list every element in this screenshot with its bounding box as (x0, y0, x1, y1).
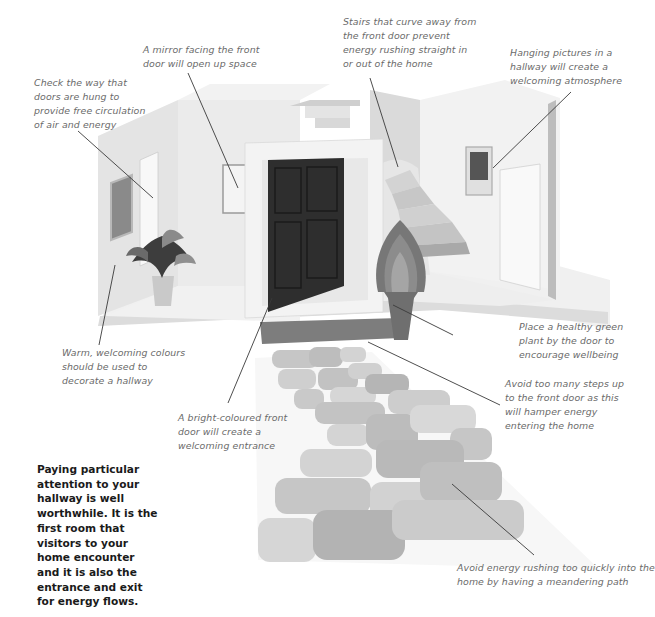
annotation-line: Stairs that curve away from (343, 15, 476, 29)
annotation-colours: Warm, welcoming colours should be used t… (62, 346, 185, 388)
annotation-line: will hamper energy (505, 405, 624, 419)
annotation-line: Check the way that (34, 76, 145, 90)
intro-paragraph: Paying particular attention to your hall… (37, 462, 197, 609)
annotation-steps: Avoid too many steps up to the front doo… (505, 377, 624, 433)
annotation-plant: Place a healthy green plant by the door … (519, 320, 623, 362)
annotation-line: Place a healthy green (519, 320, 623, 334)
annotation-line: A bright-coloured front (178, 411, 287, 425)
annotation-line: welcoming atmosphere (510, 74, 622, 88)
annotation-line: Warm, welcoming colours (62, 346, 185, 360)
annotation-line: door will open up space (143, 57, 259, 71)
annotation-line: decorate a hallway (62, 374, 185, 388)
annotation-line: provide free circulation (34, 104, 145, 118)
annotation-line: should be used to (62, 360, 185, 374)
upper-stairs (290, 100, 360, 128)
left-wall-picture (111, 175, 132, 240)
intro-line: home encounter (37, 550, 197, 565)
intro-line: Paying particular (37, 462, 197, 477)
annotation-line: doors are hung to (34, 90, 145, 104)
annotation-doors-hung: Check the way that doors are hung to pro… (34, 76, 145, 132)
intro-line: entrance and exit (37, 580, 197, 595)
annotation-mirror: A mirror facing the front door will open… (143, 43, 259, 71)
annotation-line: hallway will create a (510, 60, 622, 74)
intro-line: visitors to your (37, 536, 197, 551)
annotation-line: Avoid too many steps up (505, 377, 624, 391)
annotation-front-door: A bright-coloured front door will create… (178, 411, 287, 453)
annotation-line: Hanging pictures in a (510, 46, 622, 60)
intro-line: hallway is well (37, 491, 197, 506)
front-door[interactable] (268, 158, 344, 312)
intro-line: first room that (37, 521, 197, 536)
annotation-line: the front door prevent (343, 29, 476, 43)
annotation-line: or out of the home (343, 57, 476, 71)
intro-line: worthwhile. It is the (37, 506, 197, 521)
annotation-line: door will create a (178, 425, 287, 439)
annotation-line: energy rushing straight in (343, 43, 476, 57)
annotation-line: Avoid energy rushing too quickly into th… (457, 561, 655, 575)
annotation-line: of air and energy (34, 118, 145, 132)
intro-line: attention to your (37, 477, 197, 492)
annotation-line: A mirror facing the front (143, 43, 259, 57)
room-model (98, 80, 610, 344)
annotation-pictures: Hanging pictures in a hallway will creat… (510, 46, 622, 88)
mirror (223, 165, 248, 213)
front-step (260, 318, 400, 344)
annotation-line: entering the home (505, 419, 624, 433)
annotation-path: Avoid energy rushing too quickly into th… (457, 561, 655, 589)
right-door (500, 164, 540, 290)
annotation-line: welcoming entrance (178, 439, 287, 453)
annotation-line: encourage wellbeing (519, 348, 623, 362)
annotation-stairs: Stairs that curve away from the front do… (343, 15, 476, 71)
annotation-line: plant by the door to (519, 334, 623, 348)
intro-line: and it is also the (37, 565, 197, 580)
intro-line: for energy flows. (37, 594, 197, 609)
annotation-line: home by having a meandering path (457, 575, 655, 589)
annotation-line: to the front door as this (505, 391, 624, 405)
